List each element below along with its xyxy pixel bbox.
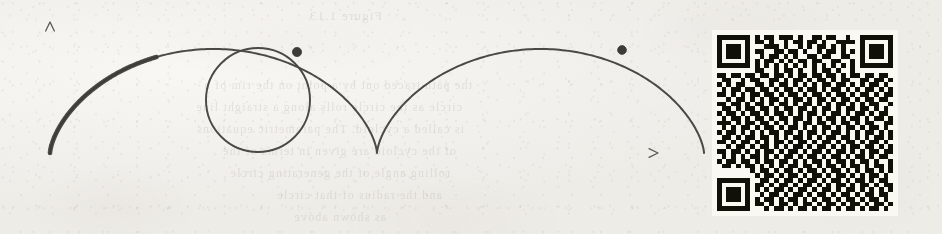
cycloid-highlighted-arch bbox=[50, 57, 157, 153]
rolling-circle-outline bbox=[206, 48, 310, 152]
cycloid-first-arch-highlight bbox=[50, 57, 157, 153]
cycloid-full-path bbox=[50, 49, 704, 153]
qr-code-canvas[interactable] bbox=[712, 30, 898, 216]
figure-page: Figure 1.13the path traced out by a poin… bbox=[0, 0, 942, 234]
qr-code[interactable] bbox=[712, 30, 898, 216]
end-point bbox=[618, 46, 627, 55]
coordinate-axes bbox=[28, 22, 658, 175]
tracing-point bbox=[292, 47, 301, 56]
rolling-circle bbox=[206, 48, 310, 152]
cycloid-curve bbox=[50, 49, 704, 153]
